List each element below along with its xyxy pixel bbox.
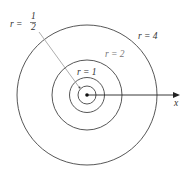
label-r-4: r = 4: [138, 31, 158, 41]
origin-point: [85, 93, 89, 97]
r-half-pointer-dot: [79, 87, 81, 89]
label-r-2: r = 2: [105, 49, 125, 59]
concentric-circles-diagram: r = 1 2 r = 4 r = 2 r = 1 x: [0, 0, 187, 175]
label-r-half-denominator: 2: [31, 22, 36, 32]
label-r-half-numerator: 1: [31, 11, 36, 21]
r-half-pointer-line: [39, 32, 79, 87]
label-r-half-prefix: r =: [10, 19, 22, 29]
label-r-1: r = 1: [77, 67, 97, 77]
label-x-axis: x: [173, 98, 179, 108]
